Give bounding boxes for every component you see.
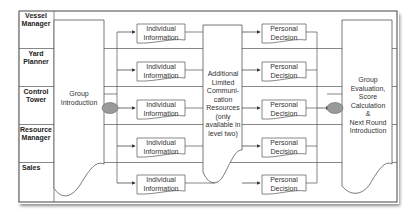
- lane-yard-planner: Yard Planner: [19, 50, 53, 66]
- eval-line: Next Round: [344, 119, 392, 128]
- eval-line: &: [344, 110, 392, 119]
- individual-info-label: Individual Information: [137, 101, 185, 118]
- comm-line: Limited: [203, 79, 243, 88]
- start-junction-icon: [102, 103, 118, 114]
- eval-line: Evaluation,: [344, 85, 392, 94]
- lane-resource-manager: Resource Manager: [17, 126, 55, 142]
- comm-line: (only: [203, 113, 243, 122]
- comm-line: Additional: [203, 70, 243, 79]
- personal-decision-label: Personal Decision: [262, 139, 306, 156]
- eval-line: Introduction: [344, 127, 392, 136]
- comm-line: available in: [203, 121, 243, 130]
- individual-info-label: Individual Information: [137, 25, 185, 42]
- comm-line: level two): [203, 130, 243, 139]
- comm-line: Resources: [203, 104, 243, 113]
- personal-decision-label: Personal Decision: [262, 176, 306, 193]
- individual-info-label: Individual Information: [137, 176, 185, 193]
- lane-vessel-manager: Vessel Manager: [19, 12, 53, 28]
- personal-decision-label: Personal Decision: [262, 63, 306, 80]
- eval-line: Calculation: [344, 102, 392, 111]
- communication-resources-label: Additional Limited Communi- cation Resou…: [203, 70, 243, 138]
- lane-sales: Sales: [19, 164, 56, 172]
- comm-line: Communi-: [203, 87, 243, 96]
- personal-decision-label: Personal Decision: [262, 101, 306, 118]
- individual-info-label: Individual Information: [137, 63, 185, 80]
- eval-line: Score: [344, 93, 392, 102]
- comm-line: cation: [203, 96, 243, 105]
- personal-decision-label: Personal Decision: [262, 25, 306, 42]
- end-junction-icon: [327, 103, 343, 114]
- group-evaluation-label: Group Evaluation, Score Calculation & Ne…: [344, 76, 392, 136]
- individual-info-label: Individual Information: [137, 139, 185, 156]
- group-introduction-label: Group Introduction: [56, 90, 102, 107]
- eval-line: Group: [344, 76, 392, 85]
- lane-control-tower: Control Tower: [19, 88, 53, 104]
